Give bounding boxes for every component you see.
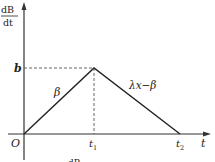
falling-segment-label: λx−β — [128, 79, 156, 91]
x-axis-arrow-icon — [203, 132, 211, 137]
y-axis-label-numerator: dB — [1, 4, 14, 15]
bottom-cropped-fragment: dB — [68, 158, 81, 162]
x-tick-t2-label: t2 — [176, 138, 184, 152]
graph-line — [24, 68, 180, 134]
peak-value-label: b — [14, 62, 22, 75]
x-axis-label: t — [201, 137, 206, 150]
y-axis-arrow-icon — [22, 2, 27, 10]
origin-label: O — [11, 137, 20, 150]
x-tick-t1-label: t1 — [89, 138, 97, 152]
y-axis-label-denominator: dt — [3, 17, 13, 28]
x-tick-t2-sub: 2 — [180, 144, 184, 152]
rising-segment-label: β — [53, 86, 60, 99]
diagram-canvas: dB dt b β λx−β O t1 t2 t dB — [0, 0, 215, 162]
x-tick-t1-sub: 1 — [93, 144, 97, 152]
